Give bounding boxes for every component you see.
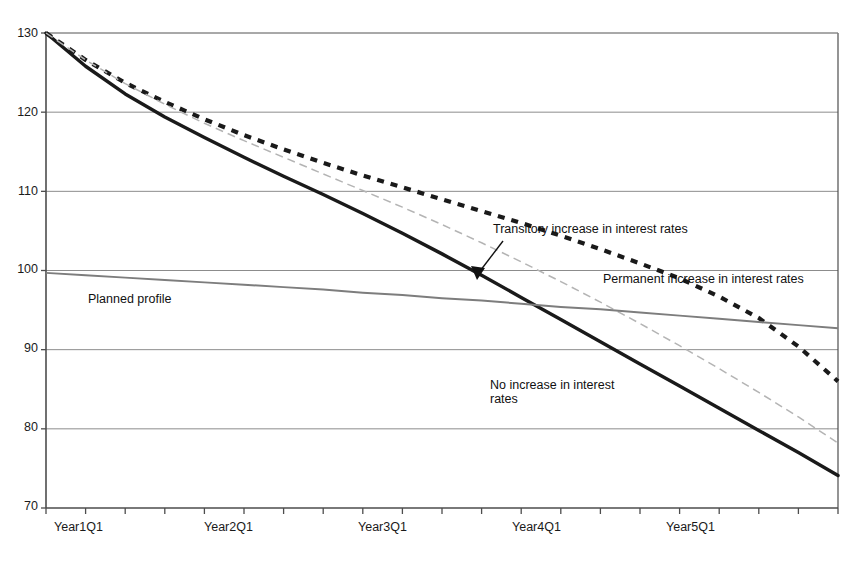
series-line-0 [46, 33, 838, 476]
annotation-permanent: Permanent increase in interest rates [603, 272, 804, 286]
annotation-no-increase-line2: rates [490, 392, 518, 406]
chart-container: 130 120 110 100 90 80 70 Year1Q1 Year2Q1… [0, 0, 864, 569]
series-line-1 [46, 33, 838, 381]
annotation-transitory: Transitory increase in interest rates [493, 222, 688, 236]
annotation-no-increase-line1: No increase in interest [490, 378, 614, 392]
series-line-2 [46, 33, 838, 443]
annotation-planned-profile: Planned profile [88, 292, 171, 306]
